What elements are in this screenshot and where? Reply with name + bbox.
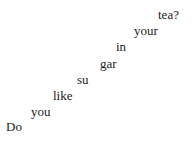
word-0: Do [6,120,22,133]
word-1: you [31,105,51,118]
word-5: in [116,40,126,53]
text-canvas: Doyoulikesugarinyourtea? [0,0,194,146]
word-3: su [77,73,89,86]
word-7: tea? [158,8,179,21]
word-2: like [53,89,73,102]
word-6: your [134,24,158,37]
word-4: gar [100,57,117,70]
